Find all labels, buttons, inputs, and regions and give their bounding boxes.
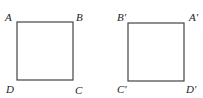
vertex-label-a-prime: A′ — [188, 11, 199, 23]
vertex-label-d: D — [5, 83, 14, 95]
vertex-label-b: B — [76, 11, 83, 23]
vertex-label-c-prime: C′ — [117, 83, 127, 95]
vertex-label-b-prime: B′ — [117, 11, 127, 23]
square-original: A B D C — [4, 11, 83, 96]
square-transformed-outline — [128, 23, 184, 81]
square-transformed: B′ A′ C′ D′ — [117, 11, 199, 95]
vertex-label-c: C — [75, 84, 83, 96]
vertex-label-a: A — [4, 11, 12, 23]
square-original-outline — [17, 22, 73, 80]
vertex-label-d-prime: D′ — [185, 83, 197, 95]
diagram-canvas: A B D C B′ A′ C′ D′ — [0, 0, 203, 98]
